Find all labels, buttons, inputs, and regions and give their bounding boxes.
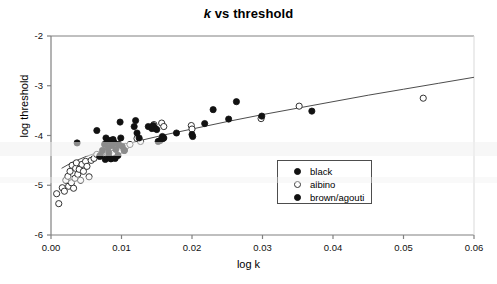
x-tick-label: 0.05 [384,242,424,253]
data-point-black [309,108,315,114]
data-point-albino [161,123,167,129]
y-tick-label: -4 [19,130,43,141]
filled-circle-icon [294,168,301,175]
data-point-black [233,99,239,105]
y-tick-label: -5 [19,179,43,190]
data-point-brown-agouti [160,135,166,141]
data-point-albino [54,191,60,197]
data-point-brown-agouti [154,126,160,132]
data-point-black [259,113,265,119]
legend-label: brown/agouti [310,192,364,203]
y-tick-label: -2 [19,30,43,41]
data-point-albino [420,95,426,101]
data-point-black [74,140,80,146]
x-tick-label: 0.06 [454,242,494,253]
data-point-black [226,116,232,122]
data-point-albino [296,103,302,109]
x-axis-ticks [51,235,474,239]
open-circle-icon [294,181,301,188]
x-tick-label: 0.02 [172,242,212,253]
filled-circle-icon [294,194,301,201]
legend-item-albino[interactable]: albino [286,178,335,191]
legend-item-black[interactable]: black [286,165,332,178]
data-point-black [117,119,123,125]
data-point-black [118,135,124,141]
data-point-black [190,133,196,139]
legend-label: black [310,166,332,177]
data-point-albino [86,174,92,180]
data-point-albino [78,177,84,183]
data-point-black [202,120,208,126]
data-point-black [210,107,216,113]
data-point-albino [127,141,133,147]
y-tick-label: -6 [19,229,43,240]
data-point-brown-agouti [121,147,127,153]
data-point-black [173,130,179,136]
chart-figure: k vs threshold log threshold log k -2-3-… [0,0,497,284]
data-point-brown-agouti [112,155,118,161]
axis-lines [51,36,474,235]
data-point-black [94,127,100,133]
legend-label: albino [310,179,335,190]
legend: blackalbinobrown/agouti [277,160,372,204]
data-point-black [131,123,137,129]
data-point-black [136,135,142,141]
data-point-albino [70,185,76,191]
x-tick-label: 0.01 [102,242,142,253]
data-point-albino [56,201,62,207]
y-tick-label: -3 [19,80,43,91]
x-tick-label: 0.03 [243,242,283,253]
legend-item-brown-agouti[interactable]: brown/agouti [286,191,364,204]
x-tick-label: 0.00 [31,242,71,253]
data-point-black [133,117,139,123]
data-point-albino [84,163,90,169]
x-tick-label: 0.04 [313,242,353,253]
